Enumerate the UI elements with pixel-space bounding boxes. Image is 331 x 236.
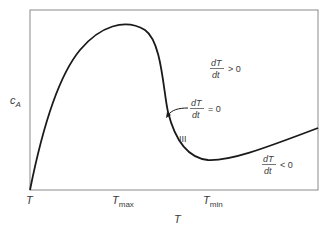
chart: cA T Tmax Tmin T dT dt > 0 dT dt = 0 III… bbox=[0, 0, 331, 236]
x-axis-label: T bbox=[174, 213, 182, 225]
svg-text:dt: dt bbox=[212, 70, 220, 80]
svg-text:dT: dT bbox=[191, 98, 203, 108]
svg-text:> 0: > 0 bbox=[228, 64, 241, 74]
annotation-dtdt-negative: dT dt < 0 bbox=[262, 154, 293, 176]
svg-text:dt: dt bbox=[264, 166, 272, 176]
annotation-dtdt-zero: dT dt = 0 bbox=[190, 98, 221, 120]
x-tick-origin: T bbox=[26, 194, 34, 206]
svg-text:< 0: < 0 bbox=[280, 160, 293, 170]
region-label-iii: III bbox=[179, 134, 187, 144]
svg-text:dT: dT bbox=[263, 154, 275, 164]
svg-text:dT: dT bbox=[211, 58, 223, 68]
x-tick-tmin: Tmin bbox=[203, 194, 223, 209]
x-tick-tmax: Tmax bbox=[112, 194, 134, 209]
annotation-dtdt-positive: dT dt > 0 bbox=[210, 58, 241, 80]
arrow-icon bbox=[168, 108, 188, 115]
svg-text:dt: dt bbox=[192, 110, 200, 120]
svg-text:= 0: = 0 bbox=[208, 104, 221, 114]
y-axis-label: cA bbox=[10, 94, 21, 109]
plot-frame bbox=[30, 10, 318, 190]
data-curve bbox=[30, 24, 318, 190]
